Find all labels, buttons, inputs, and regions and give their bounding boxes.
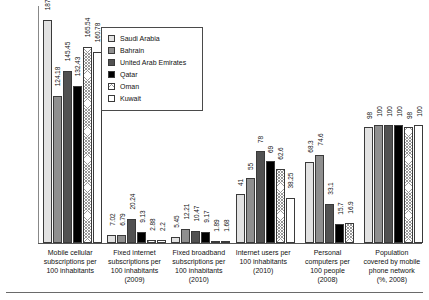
bar[interactable] <box>107 235 116 243</box>
legend-item[interactable]: Oman <box>108 81 196 92</box>
bar-column[interactable]: 132.43 <box>73 6 82 243</box>
bar[interactable] <box>394 125 403 244</box>
bar[interactable] <box>286 198 295 243</box>
category-label-line: (2009) <box>102 275 166 284</box>
bar-value-label: 15.7 <box>336 203 343 215</box>
bar-value-label: 100 <box>375 106 382 117</box>
bar[interactable] <box>147 240 156 243</box>
category-label-line: Fixed broadband <box>167 248 231 257</box>
bar[interactable] <box>63 71 72 243</box>
legend-swatch-icon <box>108 95 115 102</box>
bar[interactable] <box>414 125 423 244</box>
bar[interactable] <box>73 86 82 243</box>
bar-value-label: 160.78 <box>94 23 101 42</box>
bar[interactable] <box>117 235 126 243</box>
bar[interactable] <box>181 229 190 243</box>
category-label-line: (2010) <box>231 266 295 275</box>
legend-item-label: Oman <box>120 83 139 90</box>
bar-column[interactable]: 62.6 <box>276 6 285 243</box>
category-label-line: Internet users per <box>231 248 295 257</box>
legend-item[interactable]: Bahrain <box>108 45 196 56</box>
bar-column[interactable]: 187.86 <box>43 6 52 243</box>
bar-value-label: 68.3 <box>306 140 313 152</box>
bar-value-label: 41 <box>237 179 244 186</box>
category-label-line: (2010) <box>167 275 231 284</box>
legend-item[interactable]: Kuwait <box>108 93 196 104</box>
bar-column[interactable]: 33.1 <box>325 6 334 243</box>
legend-item[interactable]: Saudi Arabia <box>108 33 196 44</box>
bar[interactable] <box>246 178 255 243</box>
bar[interactable] <box>315 155 324 243</box>
legend-item[interactable]: Qatar <box>108 69 196 80</box>
bar-column[interactable]: 16.9 <box>345 6 354 243</box>
bar-column[interactable]: 98 <box>364 6 373 243</box>
bar[interactable] <box>276 169 285 243</box>
bar[interactable] <box>325 204 334 243</box>
bar-value-label: 1.89 <box>212 219 219 231</box>
bar[interactable] <box>201 232 210 243</box>
category-label-line: (2008) <box>295 275 359 284</box>
bar-column[interactable]: 69 <box>266 6 275 243</box>
plot-area: 187.86124.18145.45132.43165.54160.787.02… <box>38 6 424 243</box>
bar[interactable] <box>171 237 180 243</box>
bar[interactable] <box>266 161 275 243</box>
bar-column[interactable]: 1.68 <box>221 6 230 243</box>
bar[interactable] <box>53 96 62 243</box>
category-label-line: Population <box>360 248 424 257</box>
bar-column[interactable]: 68.3 <box>305 6 314 243</box>
bar[interactable] <box>384 125 393 244</box>
bar[interactable] <box>374 125 383 244</box>
bar-group: 68.374.633.115.716.9 <box>305 6 354 243</box>
bar-value-label: 16.9 <box>346 201 353 213</box>
bar-chart: 187.86124.18145.45132.43165.54160.787.02… <box>0 0 429 300</box>
bar[interactable] <box>364 127 373 243</box>
bar-value-label: 1.68 <box>222 219 229 231</box>
category-label-line: covered by mobile <box>360 257 424 266</box>
bar-column[interactable]: 38.25 <box>286 6 295 243</box>
bar[interactable] <box>43 20 52 243</box>
bar-column[interactable]: 100 <box>414 6 423 243</box>
bar[interactable] <box>236 194 245 243</box>
chart-legend: Saudi ArabiaBahrainUnited Arab EmiratesQ… <box>101 27 203 111</box>
bar-column[interactable]: 1.89 <box>211 6 220 243</box>
bar[interactable] <box>211 241 220 243</box>
bar[interactable] <box>191 231 200 243</box>
bar[interactable] <box>305 162 314 243</box>
bar-column[interactable]: 74.6 <box>315 6 324 243</box>
legend-item[interactable]: United Arab Emirates <box>108 57 196 68</box>
bar-value-label: 7.02 <box>108 213 115 225</box>
bar-column[interactable]: 100 <box>374 6 383 243</box>
bar-value-label: 9.13 <box>138 211 145 223</box>
bar[interactable] <box>335 224 344 243</box>
bar-value-label: 132.43 <box>74 57 81 76</box>
bar[interactable] <box>221 241 230 243</box>
bar-value-label: 55 <box>247 163 254 170</box>
bar-column[interactable]: 145.45 <box>63 6 72 243</box>
bar-column[interactable]: 78 <box>256 6 265 243</box>
bar-value-label: 69 <box>267 146 274 153</box>
category-label-line: Mobile cellular <box>38 248 102 257</box>
bar-value-label: 33.1 <box>326 182 333 194</box>
category-label: Fixed internetsubscriptions per100 inhab… <box>102 248 166 284</box>
bar-column[interactable]: 100 <box>394 6 403 243</box>
bar-column[interactable]: 124.18 <box>53 6 62 243</box>
category-label-line: subscriptions per <box>167 257 231 266</box>
bar[interactable] <box>137 232 146 243</box>
bar-column[interactable]: 98 <box>404 6 413 243</box>
category-label-line: subscriptions per <box>38 257 102 266</box>
bar[interactable] <box>127 219 136 243</box>
legend-item-label: Qatar <box>120 71 138 78</box>
x-axis-line <box>38 243 422 244</box>
bar-column[interactable]: 15.7 <box>335 6 344 243</box>
bar[interactable] <box>404 127 413 243</box>
bar-column[interactable]: 55 <box>246 6 255 243</box>
bar-value-label: 5.45 <box>172 215 179 227</box>
bar-column[interactable]: 100 <box>384 6 393 243</box>
bar[interactable] <box>256 151 265 243</box>
bar[interactable] <box>157 240 166 243</box>
bar[interactable] <box>83 47 92 243</box>
bar-column[interactable]: 41 <box>236 6 245 243</box>
bar[interactable] <box>345 223 354 243</box>
bar-value-label: 20.24 <box>128 194 135 210</box>
bar-column[interactable]: 165.54 <box>83 6 92 243</box>
